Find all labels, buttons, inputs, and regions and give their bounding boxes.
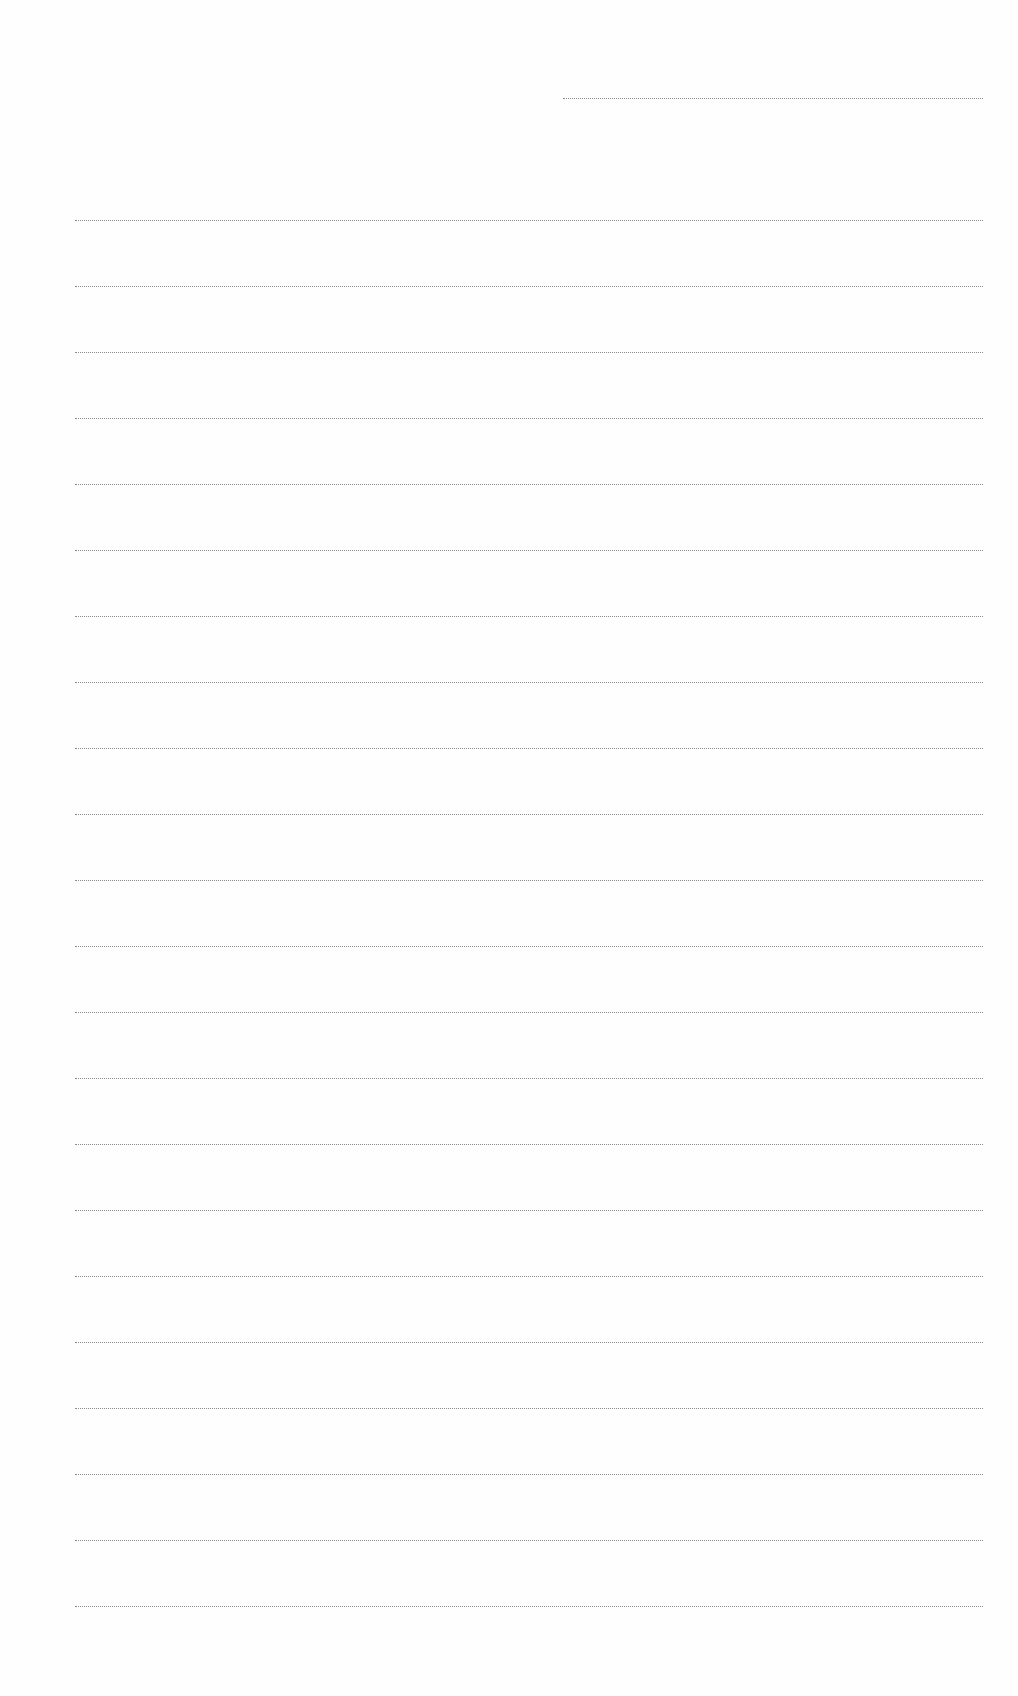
ruled-line: [75, 682, 983, 683]
ruled-line: [75, 1474, 983, 1475]
ruled-paper-page: [0, 0, 1018, 1696]
ruled-line: [75, 616, 983, 617]
ruled-line: [75, 550, 983, 551]
ruled-line: [75, 880, 983, 881]
ruled-line: [75, 1210, 983, 1211]
ruled-line: [75, 1276, 983, 1277]
ruled-line: [75, 220, 983, 221]
ruled-line: [75, 1342, 983, 1343]
ruled-line: [75, 1540, 983, 1541]
ruled-line: [75, 1012, 983, 1013]
ruled-line: [75, 286, 983, 287]
ruled-line: [75, 814, 983, 815]
ruled-line: [75, 748, 983, 749]
header-line: [563, 98, 983, 99]
ruled-line: [75, 1408, 983, 1409]
ruled-line: [75, 352, 983, 353]
ruled-line: [75, 1144, 983, 1145]
ruled-line: [75, 1606, 983, 1607]
ruled-line: [75, 946, 983, 947]
ruled-line: [75, 484, 983, 485]
ruled-line: [75, 418, 983, 419]
ruled-line: [75, 1078, 983, 1079]
